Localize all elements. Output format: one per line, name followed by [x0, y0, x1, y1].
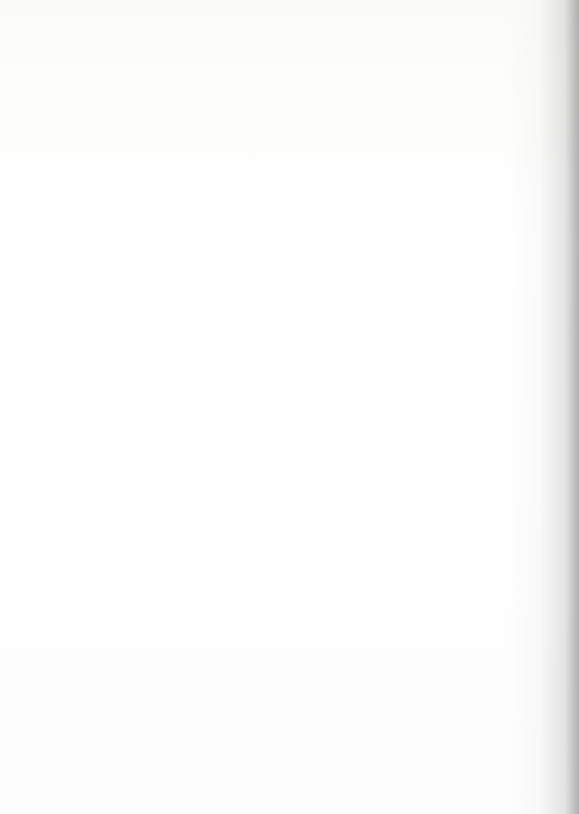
alaska-inset — [26, 668, 472, 788]
scanned-page — [0, 0, 579, 814]
alaska-landmass — [26, 668, 472, 788]
map-neatline-frame — [16, 24, 571, 794]
hawaii-inset — [26, 566, 173, 667]
hawaii-islands — [27, 567, 173, 667]
